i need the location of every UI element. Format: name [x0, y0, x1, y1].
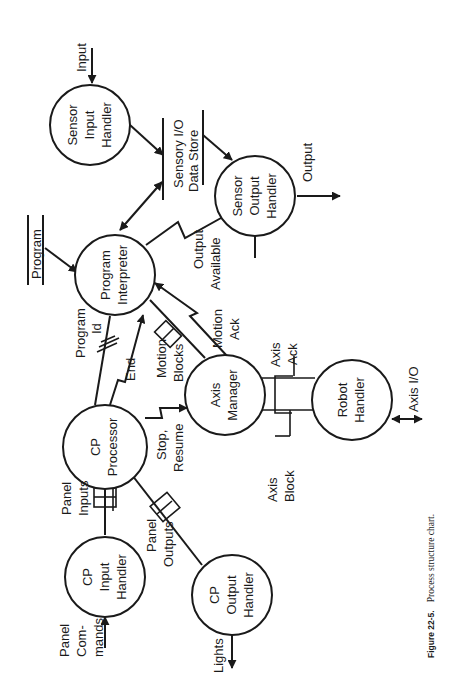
- axis-block-label-2: Block: [282, 470, 297, 502]
- motion-ack-label-2: Ack: [227, 318, 242, 340]
- motion-blocks-label-2: Blocks: [171, 343, 186, 382]
- svg-text:Axis: Axis: [208, 382, 223, 407]
- sensor-input-to-store-arrow: [130, 125, 163, 155]
- figure-caption: Figure 22-5. Process structure chart.: [420, 514, 437, 658]
- panel-outputs-label-1: Panel: [144, 519, 159, 552]
- program-id-tick-1: [97, 343, 117, 352]
- svg-text:Sensor: Sensor: [230, 175, 245, 217]
- process-sensor-output-handler: Sensor Output Handler: [215, 156, 295, 236]
- svg-text:CP: CP: [207, 586, 222, 604]
- input-flow-label: Input: [74, 43, 89, 72]
- motion-blocks-label-1: Motion: [154, 339, 169, 378]
- panel-inputs-label-1: Panel: [59, 482, 74, 515]
- stop-resume-label-1: Stop,: [154, 430, 169, 460]
- svg-text:Handler: Handler: [241, 572, 256, 618]
- process-structure-chart: Sensory I/O Data Store Program Sensor In…: [0, 0, 454, 690]
- output-flow-label: Output: [300, 143, 315, 182]
- svg-text:CP: CP: [80, 568, 95, 586]
- svg-text:Program: Program: [98, 250, 113, 300]
- sensory-io-data-store: Sensory I/O Data Store: [163, 110, 203, 200]
- axis-ack-label-1: Axis: [268, 342, 283, 367]
- panel-inputs-label-2: Inputs: [76, 480, 91, 516]
- svg-text:Robot: Robot: [335, 382, 350, 417]
- stop-resume-zigzag-arrow: [145, 408, 187, 418]
- output-available-label-2: Available: [208, 237, 223, 290]
- svg-text:Handler: Handler: [264, 173, 279, 219]
- axis-block-label-1: Axis: [265, 477, 280, 502]
- svg-text:Handler: Handler: [99, 102, 114, 148]
- sensory-io-store-label-1: Sensory I/O: [171, 119, 186, 188]
- panel-commands-label-2: Com-: [74, 625, 89, 657]
- panel-commands-label-1: Panel: [57, 624, 72, 657]
- svg-text:Sensor: Sensor: [65, 104, 80, 146]
- svg-text:Processor: Processor: [105, 417, 120, 476]
- svg-text:Handler: Handler: [114, 554, 129, 600]
- program-store-label: Program: [29, 229, 44, 279]
- store-to-sensor-output-arrow: [203, 135, 232, 160]
- store-interpreter-bidirectional-arrow: [120, 182, 162, 230]
- panel-outputs-label-2: Outputs: [161, 521, 176, 567]
- process-sensor-input-handler: Sensor Input Handler: [50, 85, 130, 165]
- process-axis-manager: Axis Manager: [185, 355, 265, 435]
- lights-label: Lights: [211, 638, 226, 673]
- axis-ack-label-2: Ack: [285, 343, 300, 365]
- process-program-interpreter: Program Interpreter: [75, 235, 155, 315]
- figure-caption-text: Process structure chart.: [426, 514, 436, 602]
- program-data-store: Program: [28, 215, 44, 285]
- stop-resume-label-2: Resume: [171, 424, 186, 472]
- svg-text:Interpreter: Interpreter: [115, 244, 130, 305]
- process-cp-output-handler: CP Output Handler: [192, 555, 272, 635]
- panel-commands-label-3: mands: [91, 617, 106, 657]
- svg-text:Manager: Manager: [225, 369, 240, 421]
- program-id-label-2: Id: [89, 323, 104, 334]
- program-id-label-1: Program: [73, 308, 88, 358]
- figure-caption-label: Figure 22-5.: [426, 610, 436, 658]
- process-cp-processor: CP Processor: [63, 405, 147, 489]
- svg-text:Handler: Handler: [352, 377, 367, 423]
- program-to-interpreter-arrow: [45, 248, 77, 272]
- axis-ack-bracket: [275, 376, 293, 413]
- axis-io-label: Axis I/O: [406, 366, 421, 412]
- svg-text:CP: CP: [88, 438, 103, 456]
- output-available-label-1: Output: [191, 230, 206, 269]
- svg-text:Output: Output: [247, 176, 262, 215]
- end-label: End: [123, 358, 138, 381]
- svg-text:Input: Input: [97, 562, 112, 591]
- process-cp-input-handler: CP Input Handler: [65, 537, 145, 617]
- svg-text:Output: Output: [224, 575, 239, 614]
- motion-ack-label-1: Motion: [210, 309, 225, 348]
- process-robot-handler: Robot Handler: [312, 360, 392, 440]
- sensory-io-store-label-2: Data Store: [186, 130, 201, 192]
- svg-text:Input: Input: [82, 110, 97, 139]
